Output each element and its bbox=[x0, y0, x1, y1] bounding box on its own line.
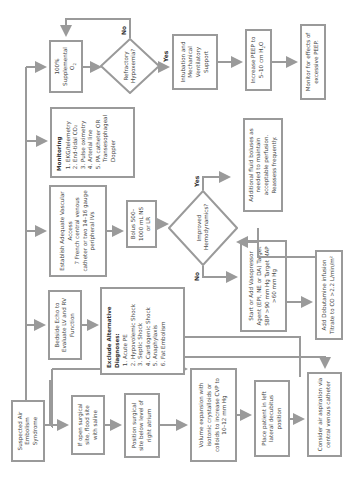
exclude-to-aspiration-line bbox=[185, 357, 325, 362]
hypoxemia-yes-label: Yes bbox=[162, 51, 169, 62]
hypoxemia-no-label: No bbox=[120, 26, 127, 35]
hemodynamics-yes-label: Yes bbox=[193, 176, 200, 187]
yes-to-fluid-line bbox=[203, 177, 229, 190]
flowchart-canvas: Suspected Air Embolism Syndrome If open … bbox=[0, 0, 352, 487]
connector-lines-extra bbox=[0, 0, 352, 487]
no-to-vasopressor-line bbox=[203, 266, 236, 277]
hemodynamics-no-label: No bbox=[193, 272, 200, 281]
